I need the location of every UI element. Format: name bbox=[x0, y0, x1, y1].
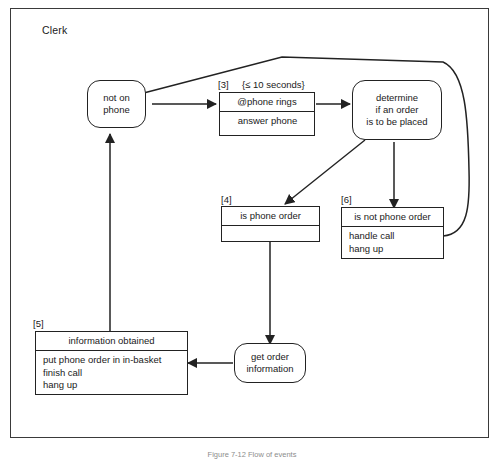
state-determine-order-line-3: is to be placed bbox=[366, 116, 427, 128]
swimlane-label: Clerk bbox=[42, 24, 68, 36]
box-information-obtained-body-line-3: hang up bbox=[43, 379, 181, 392]
box-is-phone-order-header: is phone order bbox=[222, 207, 319, 226]
box-information-obtained-body: put phone order in in-basket finish call… bbox=[36, 351, 187, 396]
box-is-not-phone-order-body: handle call hang up bbox=[342, 227, 443, 259]
state-determine-order[interactable]: determine if an order is to be placed bbox=[352, 80, 442, 140]
tag-6: [6] bbox=[341, 194, 352, 205]
figure-caption: Figure 7-12 Flow of events bbox=[0, 450, 504, 459]
box-phone-rings-header: @phone rings bbox=[220, 93, 314, 112]
box-is-not-phone-order[interactable]: is not phone order handle call hang up bbox=[341, 207, 444, 259]
tag-5: [5] bbox=[33, 318, 44, 329]
box-phone-rings-body-line-1: answer phone bbox=[227, 115, 308, 128]
state-determine-order-line-2: if an order bbox=[376, 104, 419, 116]
state-not-on-phone-line-1: not on bbox=[103, 92, 129, 104]
state-get-order-information[interactable]: get order information bbox=[234, 343, 306, 383]
box-information-obtained-body-line-1: put phone order in in-basket bbox=[43, 354, 181, 367]
box-information-obtained-header: information obtained bbox=[36, 332, 187, 351]
state-not-on-phone[interactable]: not on phone bbox=[87, 80, 146, 128]
box-phone-rings[interactable]: @phone rings answer phone bbox=[219, 92, 315, 136]
figure-canvas: Clerk not on phone [3] {≤ 10 seconds} bbox=[0, 0, 504, 460]
tag-3: [3] bbox=[218, 79, 229, 90]
state-determine-order-line-1: determine bbox=[376, 92, 418, 104]
state-get-order-information-line-2: information bbox=[247, 363, 294, 375]
box-is-phone-order-body bbox=[222, 226, 319, 237]
box-is-not-phone-order-body-line-2: hang up bbox=[349, 243, 437, 256]
box-is-phone-order[interactable]: is phone order bbox=[221, 206, 320, 242]
guard-10-seconds: {≤ 10 seconds} bbox=[242, 79, 305, 90]
tag-4: [4] bbox=[221, 194, 232, 205]
box-phone-rings-body: answer phone bbox=[220, 112, 314, 132]
box-is-not-phone-order-header: is not phone order bbox=[342, 208, 443, 227]
box-is-not-phone-order-body-line-1: handle call bbox=[349, 230, 437, 243]
state-not-on-phone-line-2: phone bbox=[103, 104, 129, 116]
box-information-obtained-body-line-2: finish call bbox=[43, 367, 181, 380]
box-information-obtained[interactable]: information obtained put phone order in … bbox=[35, 331, 188, 395]
state-get-order-information-line-1: get order bbox=[251, 351, 289, 363]
